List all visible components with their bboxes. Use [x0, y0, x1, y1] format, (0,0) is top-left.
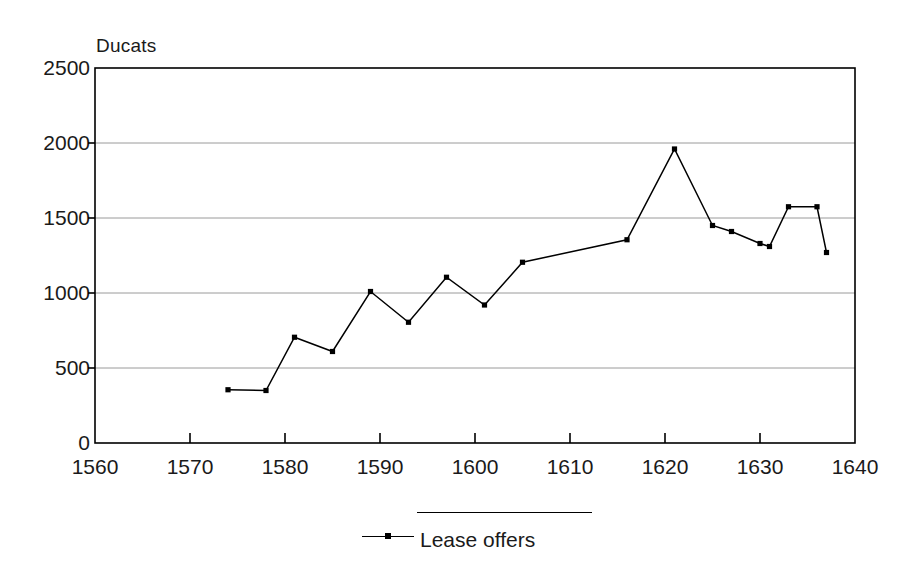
data-point-marker [729, 229, 734, 234]
data-point-marker [767, 244, 772, 249]
data-point-marker [824, 250, 829, 255]
series-line [228, 149, 827, 391]
data-point-marker [786, 204, 791, 209]
data-point-marker [368, 289, 373, 294]
data-point-marker [292, 335, 297, 340]
plot-area [0, 0, 911, 577]
data-point-marker [444, 275, 449, 280]
data-point-marker [520, 260, 525, 265]
data-point-marker [225, 387, 230, 392]
chart-container: Ducats 05001000150020002500 156015701580… [0, 0, 911, 577]
data-point-marker [482, 302, 487, 307]
data-point-marker [814, 204, 819, 209]
data-series-lease-offers [225, 146, 829, 393]
legend-label-lease-offers: Lease offers [420, 529, 535, 550]
data-point-marker [710, 223, 715, 228]
chart-legend: Lease offers [362, 508, 535, 550]
data-point-marker [263, 388, 268, 393]
data-point-marker [330, 349, 335, 354]
gridlines [95, 143, 855, 368]
data-point-marker [406, 320, 411, 325]
legend-symbol-lease-offers [362, 527, 414, 547]
legend-marker-icon [385, 533, 391, 539]
plot-frame [95, 68, 855, 443]
data-point-marker [757, 241, 762, 246]
data-point-marker [672, 146, 677, 151]
data-point-marker [624, 237, 629, 242]
axis-frame [95, 68, 855, 443]
